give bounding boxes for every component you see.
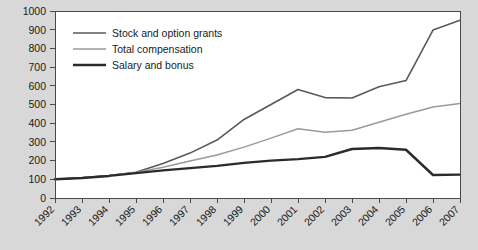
plot-area-background — [55, 11, 460, 198]
y-tick-label: 300 — [28, 136, 46, 148]
y-tick-label: 200 — [28, 154, 46, 166]
y-tick-label: 400 — [28, 117, 46, 129]
legend-label-1: Total compensation — [112, 43, 203, 55]
legend-label-2: Salary and bonus — [112, 59, 194, 71]
y-tick-label: 0 — [40, 192, 46, 204]
y-tick-label: 700 — [28, 61, 46, 73]
y-tick-label: 800 — [28, 42, 46, 54]
y-tick-label: 600 — [28, 80, 46, 92]
y-tick-label: 900 — [28, 24, 46, 36]
line-chart: 01002003004005006007008009001000 1992199… — [0, 0, 478, 250]
y-tick-label: 100 — [28, 173, 46, 185]
y-tick-label: 1000 — [23, 5, 47, 17]
legend-label-0: Stock and option grants — [112, 27, 222, 39]
chart-container: 01002003004005006007008009001000 1992199… — [0, 0, 478, 250]
y-tick-label: 500 — [28, 98, 46, 110]
